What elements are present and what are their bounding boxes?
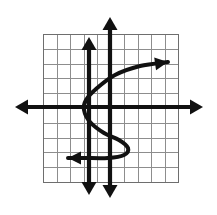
vertical-line-right-arrow-down-icon: [103, 185, 118, 198]
vertical-line-left-arrow-down-icon: [82, 182, 97, 195]
sideways-s-curve-path: [68, 62, 168, 158]
vertical-line-left-arrow-up-icon: [82, 37, 97, 50]
x-axis-arrow-left-icon: [15, 100, 28, 115]
relation-curve: [68, 57, 168, 164]
sideways-s-curve-arrow-start-icon: [68, 152, 81, 165]
coordinate-graph: [0, 0, 217, 215]
vertical-line-right-arrow-up-icon: [103, 17, 118, 30]
graph-figure: [0, 0, 217, 215]
x-axis-arrow-right-icon: [190, 100, 203, 115]
